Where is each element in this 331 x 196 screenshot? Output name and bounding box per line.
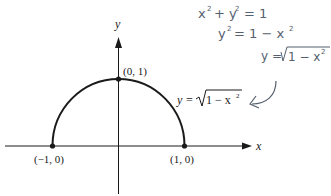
handwritten-arrowhead-icon: [250, 96, 259, 108]
point-neg1-0: [50, 143, 55, 148]
x-axis-arrow-icon: [242, 143, 252, 150]
svg-text:+ y: + y: [214, 6, 237, 21]
svg-text:= 1 − x: = 1 − x: [234, 26, 284, 41]
point-label-1-0: (1, 0): [170, 153, 194, 166]
semicircle-diagram: x y (−1, 0) (0, 1) (1, 0) y = 1 − x 2 x …: [0, 0, 331, 196]
svg-text:2: 2: [236, 92, 240, 100]
x-axis-label: x: [255, 139, 262, 153]
y-axis-arrow-icon: [115, 37, 122, 48]
svg-text:y: y: [218, 26, 226, 41]
svg-text:y =: y =: [176, 93, 193, 107]
y-axis-label: y: [114, 17, 121, 31]
svg-text:2: 2: [227, 25, 231, 33]
svg-text:2: 2: [235, 5, 239, 13]
handwritten-notes: x 2 + y 2 = 1 y 2 = 1 − x 2 y = 1 − x 2: [198, 5, 330, 64]
handwritten-arrow-icon: [252, 81, 276, 104]
svg-text:2: 2: [321, 48, 325, 56]
point-label-0-1: (0, 1): [123, 65, 147, 78]
svg-text:1 − x: 1 − x: [288, 50, 320, 64]
svg-text:1 − x: 1 − x: [206, 93, 231, 107]
svg-text:2: 2: [289, 25, 293, 33]
svg-text:y =: y =: [261, 49, 282, 63]
point-1-0: [182, 143, 187, 148]
svg-text:x: x: [198, 6, 206, 21]
svg-text:= 1: = 1: [244, 6, 267, 21]
curve-equation-label: y = 1 − x 2: [176, 90, 242, 107]
svg-text:2: 2: [207, 5, 211, 13]
point-label-neg1-0: (−1, 0): [34, 153, 64, 166]
point-0-1: [116, 76, 121, 81]
